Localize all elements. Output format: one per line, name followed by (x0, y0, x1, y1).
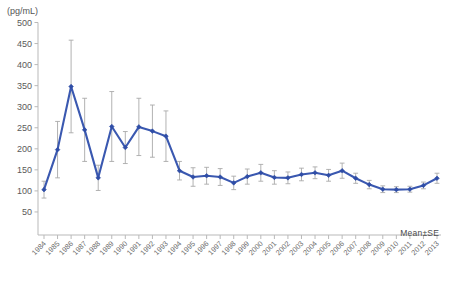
y-tick-label: 300 (17, 102, 32, 112)
y-tick-label: 100 (17, 186, 32, 196)
data-point-markers (42, 84, 440, 192)
mean-se-annotation: Mean±SE (400, 228, 439, 238)
error-bars (42, 40, 440, 198)
line-chart: (pg/mL) Mean±SE 500450400350300250200150… (0, 0, 449, 287)
y-tick-label: 350 (17, 81, 32, 91)
data-point-marker (313, 170, 318, 175)
plot-area: 50045040035030025020015010050 1984198519… (0, 0, 449, 287)
y-tick-label: 200 (17, 144, 32, 154)
y-tick-label: 450 (17, 39, 32, 49)
data-point-marker (408, 187, 413, 192)
y-axis: 50045040035030025020015010050 (17, 18, 38, 235)
y-tick-label: 400 (17, 60, 32, 70)
y-axis-unit-label: (pg/mL) (7, 6, 38, 16)
data-point-marker (69, 84, 74, 89)
data-point-marker (82, 128, 87, 133)
data-point-marker (394, 187, 399, 192)
data-point-marker (204, 173, 209, 178)
y-tick-label: 50 (22, 207, 32, 217)
data-point-marker (286, 176, 291, 181)
y-tick-label: 150 (17, 165, 32, 175)
x-axis: 1984198519861987198819891990199119921993… (30, 235, 441, 257)
series-line-mean (44, 86, 437, 189)
data-point-marker (96, 176, 101, 181)
data-point-marker (299, 172, 304, 177)
y-tick-label: 500 (17, 18, 32, 28)
y-tick-label: 250 (17, 123, 32, 133)
x-tick-label: 2013 (423, 239, 441, 257)
